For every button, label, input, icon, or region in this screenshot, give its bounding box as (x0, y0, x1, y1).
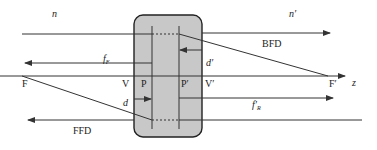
axis-z-label: z (351, 77, 356, 88)
rear-principal-point-label: P′ (181, 78, 189, 89)
object-index-label: n (52, 8, 57, 19)
front-focal-length-label: fF (103, 53, 110, 65)
ray-from-front-focus (22, 76, 152, 120)
front-principal-offset-label: d (123, 97, 129, 108)
rear-principal-offset-label: d′ (206, 57, 214, 68)
front-focal-point-label: F (22, 78, 28, 89)
ffd-label: FFD (73, 125, 91, 136)
optical-system-diagram: n n′ BFD fF d′ F V P P′ V′ F′ z d f′R FF… (0, 0, 377, 150)
rear-focal-length-label: f′R (252, 99, 261, 111)
front-vertex-label: V (122, 78, 130, 89)
rear-focal-point-label: F′ (329, 78, 337, 89)
rear-vertex-label: V′ (205, 78, 214, 89)
bfd-label: BFD (262, 38, 281, 49)
image-index-label: n′ (289, 8, 297, 19)
front-principal-point-label: P (141, 78, 147, 89)
